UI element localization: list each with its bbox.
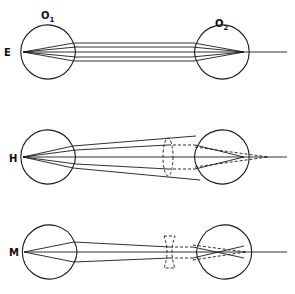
rays-h <box>23 136 287 180</box>
row-label-m: M <box>9 247 19 258</box>
eye-label-o1: O1 <box>41 10 55 24</box>
row-label-h: H <box>9 153 17 164</box>
rays-e <box>23 43 287 61</box>
optics-diagram: E O1 O2 H <box>0 0 295 294</box>
row-hyperopia: H <box>9 130 287 184</box>
row-emmetropia: E O1 O2 <box>4 10 287 79</box>
row-label-e: E <box>4 47 11 58</box>
rays-m <box>24 242 287 262</box>
row-myopia: M <box>9 225 287 279</box>
